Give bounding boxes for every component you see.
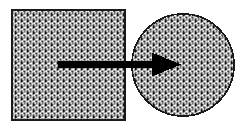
arrow-shaft xyxy=(58,61,155,68)
diagram-figure: Particle diffusion from square region to… xyxy=(0,0,240,129)
diagram-canvas xyxy=(0,0,240,129)
